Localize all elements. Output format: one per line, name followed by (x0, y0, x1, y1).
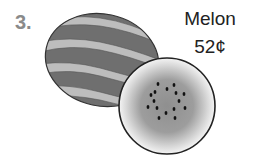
watermelon-slice-icon (119, 58, 215, 154)
item-name: Melon (178, 8, 242, 30)
item-price: 52¢ (178, 36, 242, 58)
item-number: 3. (15, 11, 32, 34)
